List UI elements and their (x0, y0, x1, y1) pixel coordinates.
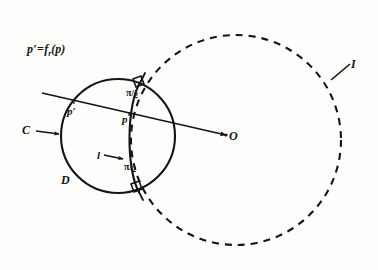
point-o-dot (224, 133, 227, 136)
label-point-p-prime: p′ (67, 106, 76, 117)
angle-bottom-denominator: 2 (132, 165, 136, 174)
label-circle-c: C (22, 124, 30, 136)
formula-lhs: p′= (27, 42, 44, 56)
label-mapping-formula: p′=fr(p) (27, 43, 65, 58)
leader-line-i (331, 64, 350, 80)
label-line-l: l (97, 150, 100, 161)
geometry-figure: p′=fr(p) p′ p C D O I l π/2 π/2 (0, 0, 378, 270)
right-angle-marker-top (133, 76, 144, 87)
arc-l-stub-bottom (139, 192, 143, 200)
label-arc-d: D (61, 174, 70, 186)
formula-argument: (p) (51, 42, 65, 56)
label-center-o: O (229, 130, 238, 142)
label-point-p: p (122, 114, 128, 125)
label-circle-i: I (351, 58, 356, 70)
angle-top-denominator: 2 (134, 91, 138, 100)
leader-line-c (36, 131, 59, 134)
leader-line-l (104, 155, 123, 159)
figure-canvas (0, 0, 378, 270)
circle-c-solid (61, 79, 175, 193)
label-angle-top: π/2 (126, 88, 138, 100)
label-angle-bottom: π/2 (124, 162, 136, 174)
